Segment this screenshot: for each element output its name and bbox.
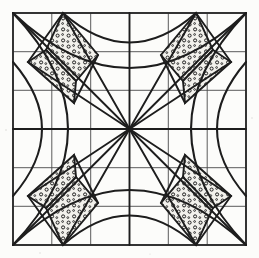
figure-root xyxy=(0,0,259,258)
rays-group xyxy=(13,13,246,245)
geometric-figure-canvas xyxy=(0,0,259,258)
